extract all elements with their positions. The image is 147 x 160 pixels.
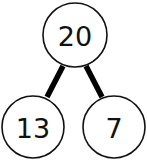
whole-node: 20	[43, 3, 107, 67]
left-part-node: 13	[2, 96, 64, 158]
left-part-label: 13	[16, 113, 50, 144]
number-bond-diagram: 20 13 7	[0, 0, 147, 160]
right-part-node: 7	[83, 96, 145, 158]
right-part-label: 7	[105, 113, 122, 144]
connector-whole-to-left-part	[47, 66, 63, 97]
whole-label: 20	[58, 21, 92, 52]
connector-whole-to-right-part	[86, 66, 102, 97]
